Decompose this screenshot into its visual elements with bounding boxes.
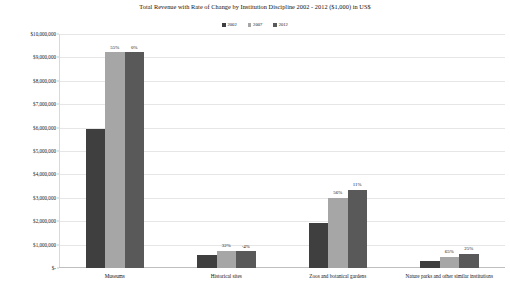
bar-wrapper: 11% xyxy=(348,34,368,268)
y-axis-tick-label: $2,000,000 xyxy=(33,218,56,224)
y-axis-tick-label: $- xyxy=(52,265,56,271)
bar-2007[interactable] xyxy=(105,52,125,268)
y-axis-tick-label: $4,000,000 xyxy=(33,171,56,177)
bar-2007[interactable] xyxy=(217,251,237,268)
y-axis-tick-label: $6,000,000 xyxy=(33,125,56,131)
bars: 32%-4% xyxy=(171,34,283,268)
bar-data-label: 65% xyxy=(445,249,454,255)
chart-legend: 2002 2007 2012 xyxy=(0,22,510,28)
bar-wrapper xyxy=(309,34,329,268)
y-axis-tick-label: $8,000,000 xyxy=(33,78,56,84)
legend-entry-2012[interactable]: 2012 xyxy=(273,22,288,28)
bar-wrapper xyxy=(197,34,217,268)
bar-2012[interactable] xyxy=(125,52,145,268)
bar-data-label: 25% xyxy=(464,246,473,252)
bar-group: 56%11%Zoos and botanical gardens xyxy=(282,34,394,268)
bar-group: 65%25%Nature parks and other similar ins… xyxy=(394,34,506,268)
bar-2007[interactable] xyxy=(328,198,348,268)
bar-wrapper: 65% xyxy=(440,34,460,268)
legend-label-2002: 2002 xyxy=(228,22,237,28)
chart-container: Total Revenue with Rate of Change by Ins… xyxy=(0,0,510,288)
bars: 65%25% xyxy=(394,34,506,268)
bar-wrapper xyxy=(420,34,440,268)
legend-entry-2007[interactable]: 2007 xyxy=(248,22,263,28)
legend-swatch-2012 xyxy=(273,23,276,26)
bar-2007[interactable] xyxy=(440,257,460,268)
bar-wrapper: -4% xyxy=(236,34,256,268)
bar-2002[interactable] xyxy=(86,129,106,268)
y-axis-tick-label: $5,000,000 xyxy=(33,148,56,154)
x-axis-category-label: Nature parks and other similar instituti… xyxy=(406,273,493,280)
bar-2002[interactable] xyxy=(197,255,217,268)
bar-wrapper: 55% xyxy=(105,34,125,268)
bar-2012[interactable] xyxy=(348,190,368,268)
y-axis-tick-label: $1,000,000 xyxy=(33,242,56,248)
chart-title: Total Revenue with Rate of Change by Ins… xyxy=(0,3,510,11)
y-axis-tick-label: $9,000,000 xyxy=(33,54,56,60)
bar-2002[interactable] xyxy=(309,223,329,268)
bar-data-label: 32% xyxy=(222,243,231,249)
plot-area: $10,000,000$9,000,000$8,000,000$7,000,00… xyxy=(59,34,505,268)
bar-wrapper xyxy=(86,34,106,268)
legend-label-2012: 2012 xyxy=(279,22,288,28)
legend-entry-2002[interactable]: 2002 xyxy=(222,22,237,28)
y-axis-tick-label: $10,000,000 xyxy=(31,31,56,37)
bars: 56%11% xyxy=(282,34,394,268)
bar-wrapper: 32% xyxy=(217,34,237,268)
bar-data-label: 55% xyxy=(110,45,119,51)
bar-data-label: 11% xyxy=(353,182,362,188)
y-axis-tick-label: $7,000,000 xyxy=(33,101,56,107)
x-axis-category-label: Zoos and botanical gardens xyxy=(309,273,366,280)
bar-wrapper: 25% xyxy=(459,34,479,268)
bar-wrapper: 56% xyxy=(328,34,348,268)
bar-data-label: 0% xyxy=(131,45,138,51)
bar-group: 55%0%Museums xyxy=(59,34,171,268)
bar-2012[interactable] xyxy=(236,251,256,268)
x-axis-category-label: Historical sites xyxy=(211,273,242,280)
bar-group: 32%-4%Historical sites xyxy=(171,34,283,268)
bar-wrapper: 0% xyxy=(125,34,145,268)
x-axis-category-label: Museums xyxy=(105,273,125,280)
y-axis-tick-label: $3,000,000 xyxy=(33,195,56,201)
bar-2002[interactable] xyxy=(420,261,440,268)
bars: 55%0% xyxy=(59,34,171,268)
legend-label-2007: 2007 xyxy=(253,22,262,28)
bar-2012[interactable] xyxy=(459,254,479,268)
legend-swatch-2002 xyxy=(222,23,225,26)
bar-data-label: -4% xyxy=(242,244,250,250)
bar-data-label: 56% xyxy=(333,190,342,196)
legend-swatch-2007 xyxy=(248,23,251,26)
